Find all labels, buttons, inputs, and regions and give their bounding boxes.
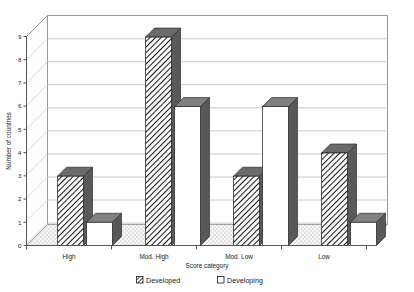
y-axis: 0 1 2 3 4 5 6 7 8 9 [18,33,26,249]
bar-high-developing[interactable] [87,213,122,245]
legend-entry-developed[interactable]: Developed [137,276,181,285]
y-tick-label-0: 0 [18,242,22,249]
chart-legend: Developed Developing [137,276,263,285]
x-axis: High Mod. High Mod. Low Low [27,246,367,262]
y-tick-label-2: 2 [18,195,22,202]
bar-mod-low-developing[interactable] [263,98,298,246]
x-axis-title: Score category [186,262,230,270]
x-tick-label-high: High [62,253,76,261]
y-tick-label-4: 4 [18,149,22,156]
y-tick-label-8: 8 [18,56,22,63]
bar-mod-high-developing[interactable] [175,98,210,246]
chart-container: 0 1 2 3 4 5 6 7 8 9 Number of countries [0,0,414,292]
y-axis-title: Number of countries [5,112,12,170]
y-tick-label-5: 5 [18,126,22,133]
y-tick-label-7: 7 [18,79,22,86]
bar-chart-3d: 0 1 2 3 4 5 6 7 8 9 Number of countries [0,0,414,292]
y-tick-label-1: 1 [18,219,22,226]
x-tick-label-low: Low [318,253,330,260]
hatched-square-icon [137,277,144,284]
white-square-icon [218,277,225,284]
y-tick-label-3: 3 [18,172,22,179]
legend-entry-developing[interactable]: Developing [218,276,263,285]
y-tick-label-6: 6 [18,102,22,109]
legend-label-developed: Developed [146,276,180,285]
legend-label-developing: Developing [227,276,263,285]
x-tick-label-mod-low: Mod. Low [225,253,253,260]
bar-low-developing[interactable] [351,213,386,245]
y-tick-label-9: 9 [18,33,22,40]
x-tick-label-mod-high: Mod. High [139,253,169,261]
